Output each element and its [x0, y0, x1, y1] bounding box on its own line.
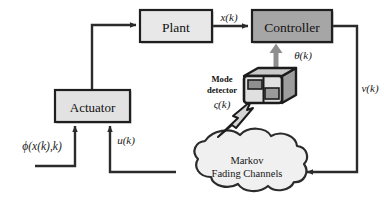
arrow-actuator-to-plant: [92, 25, 136, 90]
signal-label-state: x(k): [219, 11, 237, 24]
mode-detector-device-icon[interactable]: [244, 68, 296, 103]
block-controller-label: Controller: [264, 20, 320, 35]
block-diagram: Plant Controller Actuator Markov Fading …: [0, 0, 384, 201]
cloud-label-line1: Markov: [230, 155, 264, 166]
signal-label-measurement: v(k): [361, 82, 378, 95]
arrow-cloud-to-actuator: [110, 126, 176, 172]
block-plant[interactable]: Plant: [140, 10, 214, 44]
signal-label-detector-output: ς(k): [214, 98, 231, 111]
cloud-markov-fading-channels[interactable]: Markov Fading Channels: [194, 129, 307, 191]
block-plant-label: Plant: [162, 20, 190, 35]
signal-label-nonlinearity: ϕ(x(k),k): [22, 140, 62, 153]
mode-detector-label: Mode detector: [207, 74, 237, 95]
cloud-label-line2: Fading Channels: [212, 168, 283, 179]
mode-detector-label-line1: Mode: [211, 74, 232, 84]
signal-label-mode: θ(k): [294, 49, 312, 62]
arrow-controller-to-cloud: [307, 26, 357, 172]
block-actuator-label: Actuator: [70, 100, 116, 115]
block-actuator[interactable]: Actuator: [55, 90, 132, 124]
signal-label-control: u(k): [117, 134, 135, 147]
mode-detector-label-line2: detector: [207, 85, 237, 95]
block-controller[interactable]: Controller: [252, 10, 334, 44]
figure-canvas: Plant Controller Actuator Markov Fading …: [0, 0, 384, 201]
